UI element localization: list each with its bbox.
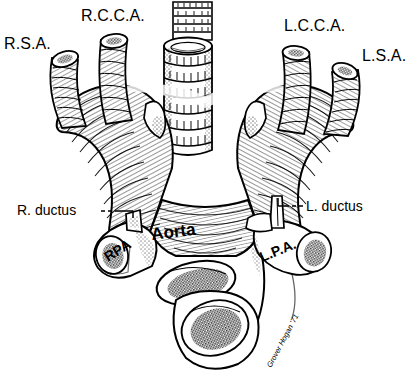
anatomy-drawing: Aorta RPA L.P.A. Grover Hogan '71 [0, 0, 410, 383]
label-right-subclavian: R.S.A. [4, 36, 51, 52]
label-left-ductus: L. ductus [306, 199, 363, 213]
label-left-subclavian: L.S.A. [362, 48, 406, 64]
right-common-carotid-artery [99, 33, 132, 124]
ascending-aorta-stump [174, 291, 259, 369]
label-right-common-carotid: R.C.C.A. [81, 8, 145, 24]
artist-signature: Grover Hogan '71 [265, 313, 301, 369]
right-subclavian-artery [50, 48, 86, 128]
label-right-ductus: R. ductus [17, 203, 76, 217]
illustration-canvas: Aorta RPA L.P.A. Grover Hogan '71 R.S.A.… [0, 0, 410, 383]
right-ductus-stump [126, 210, 142, 232]
svg-text:Grover Hogan '71: Grover Hogan '71 [265, 313, 301, 369]
label-left-common-carotid: L.C.C.A. [284, 18, 345, 34]
